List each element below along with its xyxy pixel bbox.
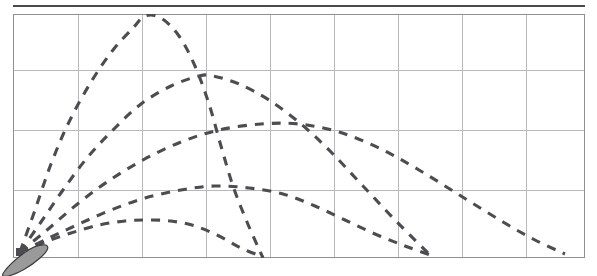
top-divider-rule [13, 5, 585, 7]
cannon-launcher-icon[interactable] [0, 243, 52, 276]
trajectory-2-high [20, 75, 433, 258]
projectile-simulation-canvas [0, 0, 597, 276]
trajectory-4-low [20, 186, 433, 256]
plot-area[interactable] [13, 14, 585, 258]
cannon-barrel-shape [3, 245, 48, 276]
trajectory-plot-svg [13, 14, 585, 258]
horizontal-gridlines [13, 70, 585, 190]
plot-frame-border [14, 15, 585, 258]
vertical-gridlines [78, 14, 526, 258]
trajectory-group [20, 15, 565, 258]
